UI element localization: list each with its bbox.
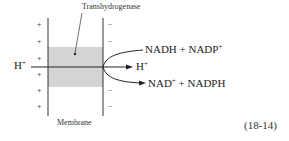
charge-plus-1: +: [37, 20, 42, 29]
enzyme-label: Transhydrogenase: [82, 2, 140, 11]
proton-out-label: H+: [136, 60, 148, 72]
charge-minus-6: −: [108, 102, 113, 111]
equation-number: (18-14): [244, 119, 277, 131]
reactants-label: NADH + NADP+: [145, 43, 222, 55]
products-label: NAD+ + NADPH: [148, 77, 225, 89]
product-arrowhead-icon: [139, 81, 146, 86]
label-pointer-dot: [74, 53, 76, 55]
charge-plus-5: +: [37, 86, 42, 95]
charge-plus-6: +: [37, 102, 42, 111]
charge-plus-3: +: [37, 54, 42, 63]
membrane-label: Membrane: [57, 118, 92, 127]
proton-arrowhead-icon: [126, 65, 133, 70]
charge-minus-1: −: [108, 20, 113, 29]
charge-minus-2: −: [108, 37, 113, 46]
charge-plus-2: +: [37, 37, 42, 46]
charge-plus-4: +: [37, 70, 42, 79]
charge-minus-5: −: [108, 86, 113, 95]
proton-in-label: H+: [14, 59, 26, 71]
